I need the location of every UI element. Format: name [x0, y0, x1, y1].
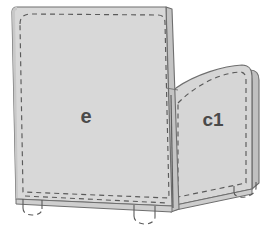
- diagram-root: e c1: [0, 0, 270, 230]
- panel-e-group: [12, 7, 179, 212]
- panel-label-e: e: [80, 105, 91, 127]
- assembly-diagram: e c1: [0, 0, 270, 230]
- panel-e-face: [12, 7, 172, 206]
- panel-c1-group: [171, 65, 259, 211]
- panel-label-c1: c1: [202, 109, 224, 130]
